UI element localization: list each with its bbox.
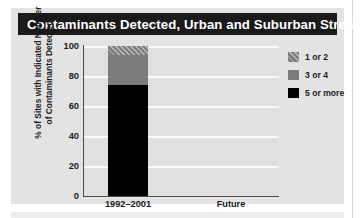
bar-segment-1-or-2[interactable] — [108, 46, 148, 55]
page-right-rule — [352, 0, 353, 218]
bar-segment-3-or-4[interactable] — [108, 55, 148, 85]
y-axis-title: % of Sites with Indicated Number of Cont… — [33, 2, 54, 144]
solid-gray-swatch-icon — [288, 70, 299, 80]
y-tick-label-20: 20 — [53, 161, 79, 171]
y-axis-line — [83, 45, 84, 197]
y-tick-label-100: 100 — [53, 41, 79, 51]
legend-label-5-or-more: 5 or more — [305, 88, 344, 98]
legend-label-3-or-4: 3 or 4 — [305, 70, 328, 80]
legend-item-5-or-more[interactable]: 5 or more — [288, 85, 344, 100]
stacked-bar-1992-2001[interactable] — [108, 46, 148, 196]
y-tick-label-40: 40 — [53, 131, 79, 141]
x-tick-label-future: Future — [191, 199, 271, 209]
legend-item-3-or-4[interactable]: 3 or 4 — [288, 67, 344, 82]
x-tick-label-1992-2001: 1992–2001 — [88, 199, 168, 209]
y-tick-label-80: 80 — [53, 71, 79, 81]
x-axis-line — [83, 196, 279, 197]
y-axis-title-line1: % of Sites with Indicated Number — [33, 2, 44, 144]
solid-black-swatch-icon — [288, 88, 299, 98]
y-tick-label-0: 0 — [53, 191, 79, 201]
y-axis-title-line2: of Contaminants Detected — [44, 2, 55, 144]
legend-label-1-or-2: 1 or 2 — [305, 52, 328, 62]
chart-figure-card: Contaminants Detected, Urban and Suburba… — [11, 8, 344, 204]
y-tick-label-60: 60 — [53, 101, 79, 111]
bar-segment-5-or-more[interactable] — [108, 85, 148, 196]
hatched-gray-swatch-icon — [288, 52, 299, 62]
legend-item-1-or-2[interactable]: 1 or 2 — [288, 49, 344, 64]
chart-legend: 1 or 2 3 or 4 5 or more — [288, 49, 344, 103]
